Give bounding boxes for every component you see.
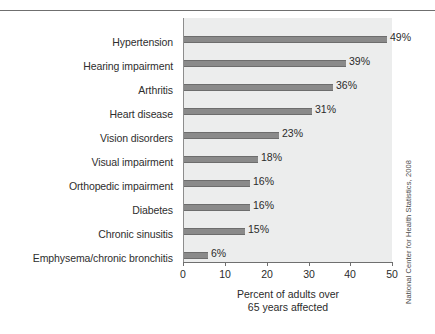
x-axis-tick-label: 20 xyxy=(261,268,273,280)
bar-value-label: 16% xyxy=(253,200,274,211)
category-label: Arthritis xyxy=(0,85,173,96)
x-axis-tick-label: 0 xyxy=(180,268,186,280)
bar-value-label: 39% xyxy=(349,56,370,67)
chart-page: Hypertension Hearing impairment Arthriti… xyxy=(0,0,435,334)
x-axis-tick-label: 10 xyxy=(219,268,231,280)
x-axis-line xyxy=(183,262,393,263)
bar-value-label: 16% xyxy=(253,176,274,187)
x-axis-title: Percent of adults over 65 years affected xyxy=(183,288,393,314)
x-axis-tick-label: 30 xyxy=(303,268,315,280)
bar xyxy=(183,108,312,115)
bar xyxy=(183,60,346,67)
category-label: Hypertension xyxy=(0,37,173,48)
bar-value-label: 6% xyxy=(211,248,226,259)
bar-value-label: 23% xyxy=(282,128,303,139)
bar xyxy=(183,84,333,91)
x-axis-tick xyxy=(225,262,226,266)
bar xyxy=(183,228,245,235)
bar xyxy=(183,156,258,163)
category-label: Vision disorders xyxy=(0,133,173,144)
x-axis-tick xyxy=(183,262,184,266)
y-axis-line xyxy=(183,18,184,262)
bar xyxy=(183,132,279,139)
bar xyxy=(183,252,208,259)
x-axis-tick xyxy=(309,262,310,266)
source-credit: National Center for Health Statistics, 2… xyxy=(404,160,413,304)
bar xyxy=(183,204,250,211)
bar xyxy=(183,180,250,187)
bar-value-label: 36% xyxy=(336,80,357,91)
x-axis-tick xyxy=(392,262,393,266)
x-axis-title-line-2: 65 years affected xyxy=(183,301,393,314)
category-label: Diabetes xyxy=(0,205,173,216)
bar-value-label: 31% xyxy=(315,104,336,115)
bar-value-label: 18% xyxy=(261,152,282,163)
horizontal-bar-chart: Hypertension Hearing impairment Arthriti… xyxy=(0,14,435,334)
category-label: Visual impairment xyxy=(0,157,173,168)
bar-value-label: 49% xyxy=(390,32,411,43)
x-axis-title-line-1: Percent of adults over xyxy=(183,288,393,301)
x-axis-tick-label: 40 xyxy=(344,268,356,280)
category-label: Heart disease xyxy=(0,109,173,120)
x-axis-tick xyxy=(350,262,351,266)
category-label: Chronic sinusitis xyxy=(0,229,173,240)
bar-value-label: 15% xyxy=(248,224,269,235)
category-label-column: Hypertension Hearing impairment Arthriti… xyxy=(0,18,178,266)
top-divider xyxy=(0,10,435,11)
bar xyxy=(183,36,387,43)
category-label: Orthopedic impairment xyxy=(0,181,173,192)
category-label: Hearing impairment xyxy=(0,61,173,72)
x-axis-tick-label: 50 xyxy=(386,268,398,280)
x-axis-tick xyxy=(267,262,268,266)
category-label: Emphysema/chronic bronchitis xyxy=(0,253,173,264)
